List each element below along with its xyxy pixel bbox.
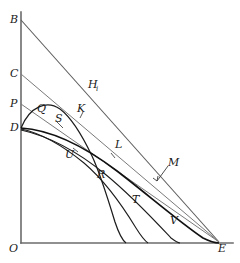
label-M: M <box>167 156 180 169</box>
label-D: D <box>9 121 19 134</box>
label-C: C <box>10 67 19 80</box>
label-R: R <box>96 168 105 181</box>
label-V: V <box>170 214 179 227</box>
pointer-arrowhead-M <box>153 176 158 181</box>
label-P: P <box>9 97 18 110</box>
label-U: U <box>65 148 75 161</box>
ray-B-to-E <box>21 20 219 242</box>
label-S: S <box>55 112 63 125</box>
label-H-subscript: i <box>96 85 98 93</box>
geometric-diagram: B C P D Q K S U L R M T V O E H i <box>0 0 240 263</box>
curve-D-Q-K-R <box>21 105 126 243</box>
label-B: B <box>9 13 18 26</box>
label-O: O <box>9 242 18 255</box>
label-T: T <box>132 193 141 206</box>
label-Q: Q <box>37 102 46 115</box>
curve-outer-drop <box>21 130 180 243</box>
ray-C-to-E <box>21 74 219 242</box>
figure-container: B C P D Q K S U L R M T V O E H i <box>0 0 240 263</box>
curve-D-U-T <box>21 129 148 243</box>
label-L: L <box>114 138 122 151</box>
label-K: K <box>76 102 86 115</box>
label-E: E <box>217 242 226 255</box>
